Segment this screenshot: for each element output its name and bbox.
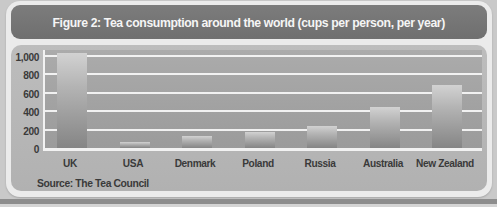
gridline-200 — [45, 129, 482, 131]
page: Figure 2: Tea consumption around the wor… — [0, 0, 497, 207]
gridline-400 — [45, 110, 482, 112]
y-tick-label-600: 600 — [13, 88, 39, 100]
x-tick-label-new-zealand: New Zealand — [413, 157, 477, 169]
source-label: Source: The Tea Council — [37, 177, 149, 189]
bar-usa — [120, 142, 150, 148]
below-strip-background — [0, 204, 497, 207]
bar-denmark — [182, 136, 212, 148]
y-tick-label-400: 400 — [13, 106, 39, 118]
bar-poland — [245, 132, 275, 148]
figure-title: Figure 2: Tea consumption around the wor… — [53, 15, 445, 30]
bar-australia — [370, 107, 400, 148]
gridline-1000 — [45, 55, 482, 57]
bar-russia — [307, 126, 337, 148]
y-tick-label-200: 200 — [13, 125, 39, 137]
x-tick-label-denmark: Denmark — [163, 157, 227, 169]
y-tick-label-0: 0 — [13, 143, 39, 155]
x-tick-label-usa: USA — [100, 157, 164, 169]
x-tick-label-russia: Russia — [288, 157, 352, 169]
chart-panel: 02004006008001,000 UKUSADenmarkPolandRus… — [11, 45, 487, 191]
plot-area — [43, 50, 482, 151]
y-tick-label-1000: 1,000 — [13, 51, 39, 63]
gridline-600 — [45, 92, 482, 94]
x-tick-label-poland: Poland — [225, 157, 289, 169]
figure-title-bar: Figure 2: Tea consumption around the wor… — [11, 5, 487, 39]
x-tick-label-uk: UK — [38, 157, 102, 169]
gridline-800 — [45, 73, 482, 75]
y-tick-label-800: 800 — [13, 69, 39, 81]
bar-uk — [57, 53, 87, 148]
figure-frame: Figure 2: Tea consumption around the wor… — [6, 1, 492, 197]
bar-new-zealand — [432, 85, 462, 148]
x-tick-label-australia: Australia — [350, 157, 414, 169]
